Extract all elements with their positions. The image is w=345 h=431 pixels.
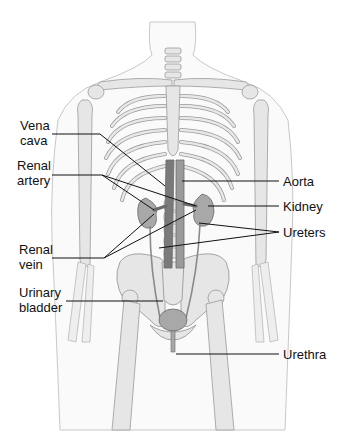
label-ureters: Ureters: [283, 225, 326, 240]
label-renal-artery: Renal artery: [17, 158, 51, 188]
label-vena-cava: Vena cava: [20, 118, 50, 148]
urethra: [171, 331, 175, 352]
label-urethra: Urethra: [283, 347, 326, 362]
label-renal-vein: Renal vein: [19, 242, 53, 272]
urinary-bladder: [159, 309, 187, 331]
urinary-system-illustration: [0, 0, 345, 431]
label-urinary-bladder: Urinary bladder: [19, 285, 62, 315]
label-kidney: Kidney: [283, 199, 323, 214]
sternum: [166, 86, 180, 156]
label-aorta: Aorta: [283, 174, 314, 189]
